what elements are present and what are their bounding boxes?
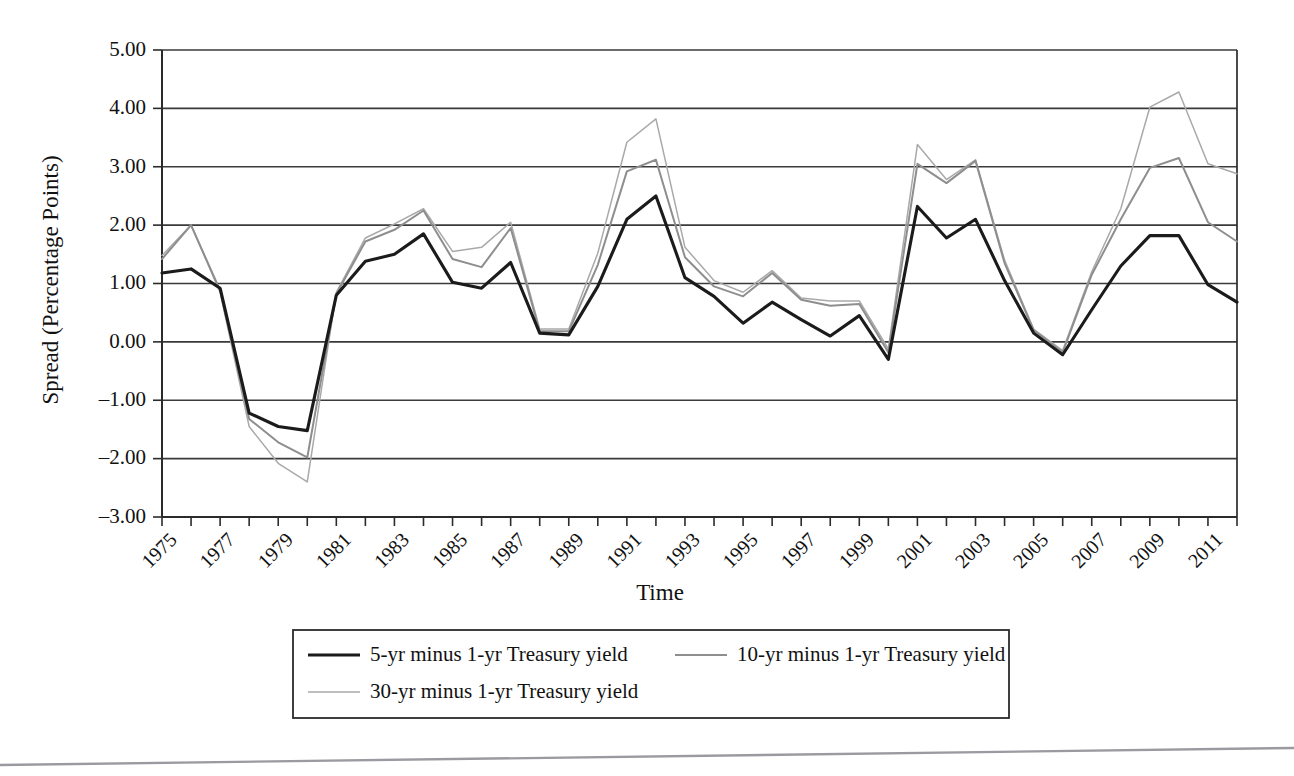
- y-tick-label: 0.00: [109, 329, 146, 353]
- y-tick-label: 4.00: [109, 95, 146, 119]
- y-tick-label: –3.00: [98, 504, 146, 528]
- y-tick-label: –1.00: [98, 387, 146, 411]
- x-axis-title: Time: [636, 580, 684, 605]
- y-axis-title: Spread (Percentage Points): [38, 155, 63, 404]
- figure-container: 5.004.003.002.001.000.00–1.00–2.00–3.00 …: [0, 0, 1294, 776]
- legend-label: 30-yr minus 1-yr Treasury yield: [370, 679, 639, 703]
- y-tick-label: 1.00: [109, 270, 146, 294]
- legend-label: 10-yr minus 1-yr Treasury yield: [737, 642, 1006, 666]
- yield-spread-chart: 5.004.003.002.001.000.00–1.00–2.00–3.00 …: [0, 0, 1294, 776]
- page-canvas: 5.004.003.002.001.000.00–1.00–2.00–3.00 …: [0, 0, 1294, 776]
- y-tick-label: –2.00: [98, 445, 146, 469]
- legend-label: 5-yr minus 1-yr Treasury yield: [370, 642, 628, 666]
- y-tick-label: 3.00: [109, 154, 146, 178]
- chart-legend: 5-yr minus 1-yr Treasury yield10-yr minu…: [293, 630, 1009, 718]
- y-tick-label: 5.00: [109, 37, 146, 61]
- y-tick-label: 2.00: [109, 212, 146, 236]
